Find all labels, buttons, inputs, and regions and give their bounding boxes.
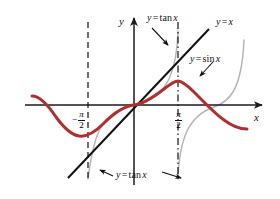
tick-label-neg-pi-over-2: − π 2 — [72, 110, 85, 130]
label-top-tan-argument: x — [173, 12, 178, 23]
x-axis-label: x — [254, 112, 259, 123]
label-y-equals-tan-x-top: y=tanx — [147, 13, 178, 23]
label-y-equals-tan-x-bottom: y=tanx — [116, 170, 147, 180]
label-sin-function: sin — [202, 53, 215, 64]
label-y-equals-x: y=x — [216, 17, 233, 27]
annotation-arrow-sin — [200, 62, 213, 76]
sine-tangent-identity-graph-figure: y x y=tanx y=x y=sinx y=tanx − π 2 π 2 — [0, 0, 280, 199]
tick-neg-fraction: π 2 — [78, 110, 85, 130]
sine-curve — [32, 81, 247, 136]
tick-label-pi-over-2: π 2 — [174, 110, 182, 130]
label-top-tan-variable: y — [147, 12, 152, 23]
label-y-equals-sin-x: y=sinx — [190, 54, 220, 64]
tick-pos-numerator: π — [175, 110, 182, 119]
label-identity-argument: x — [228, 16, 233, 27]
y-axis-label: y — [119, 16, 124, 27]
label-bottom-tan-function: tan — [128, 169, 142, 180]
tick-neg-denominator: 2 — [78, 121, 85, 130]
annotation-arrow-tan-top — [152, 28, 168, 45]
label-top-tan-function: tan — [159, 12, 173, 23]
tick-pos-fraction: π 2 — [175, 110, 182, 130]
tick-neg-sign: − — [72, 114, 78, 124]
tick-neg-numerator: π — [78, 110, 85, 119]
annotation-arrow-tan-bottom-left — [100, 170, 113, 176]
label-sin-variable: y — [190, 53, 195, 64]
label-bottom-tan-argument: x — [142, 169, 147, 180]
label-bottom-tan-variable: y — [116, 169, 121, 180]
label-identity-variable: y — [216, 16, 221, 27]
tick-pos-denominator: 2 — [175, 121, 182, 130]
label-sin-argument: x — [216, 53, 221, 64]
